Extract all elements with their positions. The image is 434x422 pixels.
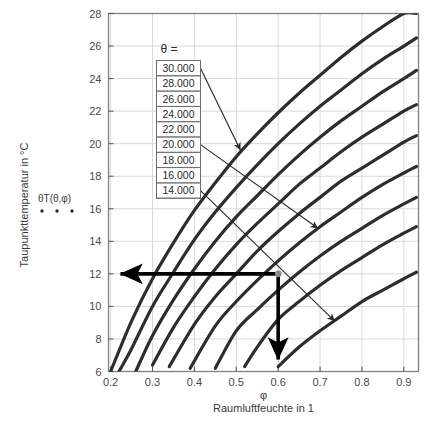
y-axis-ticks: 6810121416182022242628: [89, 8, 113, 378]
construction-node: [275, 270, 282, 277]
y-tick-label: 28: [89, 8, 101, 20]
legend-entry-label: 28.000: [162, 77, 194, 89]
y-tick-label: 16: [89, 203, 101, 215]
y-tick-label: 6: [95, 366, 101, 378]
x-tick-label: 0.4: [187, 376, 202, 388]
legend-entry-label: 26.000: [162, 93, 194, 105]
legend-entry-label: 30.000: [162, 62, 194, 74]
legend-entry-label: 14.000: [162, 184, 194, 196]
legend-entry-label: 20.000: [162, 138, 194, 150]
x-tick-label: 0.3: [145, 376, 160, 388]
dewpoint-chart: 6810121416182022242628 0.20.30.40.50.60.…: [0, 0, 434, 422]
curve-theta-18: [215, 197, 416, 368]
callout-arrows: [201, 68, 335, 321]
y-tick-label: 8: [95, 333, 101, 345]
y-tick-label: 26: [89, 40, 101, 52]
x-tick-label: 0.7: [312, 376, 327, 388]
y-tick-label: 24: [89, 73, 101, 85]
y-tick-label: 10: [89, 300, 101, 312]
chart-canvas: 6810121416182022242628 0.20.30.40.50.60.…: [0, 0, 434, 422]
y-axis-title: Taupunkttemperatur in °C: [18, 143, 30, 268]
legend-title: θ =: [161, 42, 178, 56]
y-tick-label: 20: [89, 138, 101, 150]
y-tick-label: 22: [89, 105, 101, 117]
x-axis-ticks: 0.20.30.40.50.60.70.80.9: [103, 367, 412, 388]
x-tick-label: 0.9: [396, 376, 411, 388]
series-marker-dot: [40, 209, 43, 212]
y-tick-label: 14: [89, 235, 101, 247]
callout-arrow-20.000: [201, 145, 318, 229]
legend-entry-label: 16.000: [162, 169, 194, 181]
legend-entry-label: 18.000: [162, 154, 194, 166]
x-tick-label: 0.8: [354, 376, 369, 388]
legend-entry-label: 22.000: [162, 123, 194, 135]
series-marker-dot: [55, 209, 58, 212]
series-annotation: θT(θ,φ): [38, 193, 71, 204]
x-tick-label: 0.5: [229, 376, 244, 388]
legend-box: θ =30.00028.00026.00024.00022.00020.0001…: [157, 42, 201, 199]
x-axis-title: Raumluftfeuchte in 1: [213, 402, 314, 414]
x-axis-symbol: φ: [260, 389, 267, 401]
y-tick-label: 18: [89, 170, 101, 182]
y-tick-label: 12: [89, 268, 101, 280]
callout-arrow-30.000: [201, 68, 241, 150]
series-marker-dot: [70, 209, 73, 212]
legend-entry-label: 24.000: [162, 108, 194, 120]
x-tick-label: 0.6: [271, 376, 286, 388]
x-tick-label: 0.2: [103, 376, 118, 388]
